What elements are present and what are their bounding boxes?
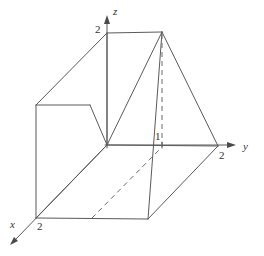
edge-bottom-mid-to-y2 (148, 146, 218, 219)
y-axis-label: y (243, 141, 248, 152)
edge-z2-to-topright (107, 32, 162, 33)
edge-backleft-to-z2 (36, 33, 107, 105)
tick-label-y-2: 2 (219, 150, 225, 161)
solid-hidden-edges (92, 34, 162, 218)
edge-midleft-to-origin (90, 105, 107, 145)
tick-label-y-1: 1 (155, 131, 161, 142)
edge-bottom-mid-to-topright (148, 32, 162, 219)
coordinate-diagram (0, 0, 264, 256)
y-axis-arrowhead (227, 142, 236, 148)
edge-origin-to-x2 (36, 145, 107, 218)
tick-label-z-2: 2 (95, 24, 101, 35)
tick-label-x-2: 2 (37, 221, 43, 232)
edge-origin-to-topright (107, 32, 162, 145)
solid-visible-edges (36, 32, 218, 219)
z-axis-arrowhead (104, 15, 110, 24)
figure-root: z y x 2 2 1 2 (0, 0, 264, 256)
x-axis-label: x (10, 219, 15, 230)
edge-x2-to-bottom-mid (36, 218, 148, 219)
z-axis-label: z (113, 6, 117, 17)
edge-topright-to-y2 (162, 32, 218, 146)
